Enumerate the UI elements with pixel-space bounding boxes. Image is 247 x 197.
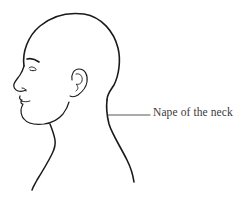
nape-outline	[107, 100, 134, 182]
eyebrow	[27, 59, 39, 62]
head-profile-illustration	[0, 0, 247, 197]
face-profile-upper	[14, 66, 26, 91]
face-profile-lower	[20, 96, 69, 124]
skull-outline	[24, 14, 120, 101]
mouth	[21, 101, 30, 102]
ear-inner	[76, 74, 82, 91]
label-nape-of-neck: Nape of the neck	[153, 106, 233, 118]
ear	[70, 69, 87, 97]
throat-outline	[32, 124, 55, 190]
eye	[29, 67, 36, 71]
